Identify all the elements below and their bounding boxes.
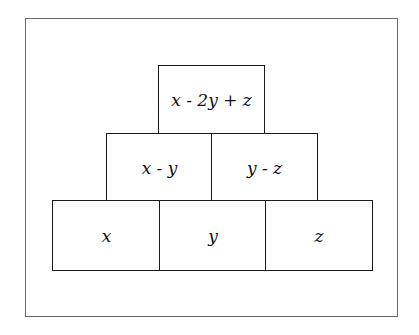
pyramid-cell-bottom-center: y <box>159 200 267 271</box>
cell-label: y <box>208 226 218 246</box>
cell-label: y - z <box>247 158 282 178</box>
pyramid-cell-middle-right: y - z <box>211 133 318 202</box>
cell-label: z <box>315 226 324 246</box>
pyramid-cell-bottom-right: z <box>265 200 373 271</box>
cell-label: x <box>102 226 112 246</box>
cell-label: x - y <box>142 158 178 178</box>
pyramid-cell-top: x - 2y + z <box>158 65 265 135</box>
pyramid-cell-bottom-left: x <box>52 200 161 271</box>
pyramid-cell-middle-left: x - y <box>106 133 213 202</box>
cell-label: x - 2y + z <box>171 90 252 110</box>
